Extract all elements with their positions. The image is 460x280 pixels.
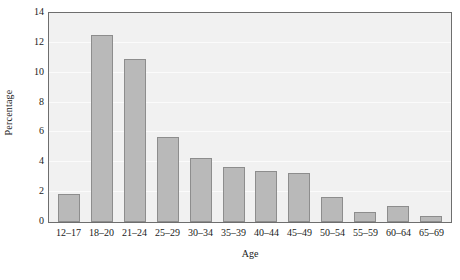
bar-slot — [381, 13, 414, 222]
y-axis-title-label: Percentage — [4, 89, 15, 135]
y-axis-tick-label: 10 — [34, 67, 44, 77]
x-axis-tick-label: 21–24 — [118, 226, 151, 242]
x-axis-tick-label: 30–34 — [184, 226, 217, 242]
bar-slot — [316, 13, 349, 222]
bar[interactable] — [354, 212, 376, 222]
x-axis-tick-label: 35–39 — [217, 226, 250, 242]
y-axis-tick-label: 14 — [34, 7, 44, 17]
x-axis-tick-label: 40–44 — [250, 226, 283, 242]
bars-layer — [49, 13, 451, 222]
bar[interactable] — [190, 158, 212, 222]
x-axis-tick-label: 45–49 — [283, 226, 316, 242]
bar-slot — [119, 13, 152, 222]
x-axis-tick-label: 50–54 — [316, 226, 349, 242]
bar-slot — [348, 13, 381, 222]
y-axis-title: Percentage — [0, 0, 18, 224]
bar[interactable] — [58, 194, 80, 222]
bar-slot — [250, 13, 283, 222]
bar-slot — [217, 13, 250, 222]
bar[interactable] — [91, 35, 113, 222]
y-axis-tick-label: 0 — [39, 216, 44, 226]
x-axis-tick-label: 12–17 — [52, 226, 85, 242]
bar[interactable] — [321, 197, 343, 222]
bar[interactable] — [420, 216, 442, 222]
y-axis-tick-labels: 02468101214 — [18, 0, 48, 232]
y-axis-tick-label: 8 — [39, 97, 44, 107]
bar[interactable] — [387, 206, 409, 222]
y-axis-tick-label: 2 — [39, 186, 44, 196]
y-axis-tick-label: 6 — [39, 126, 44, 136]
bar-slot — [414, 13, 447, 222]
bar-slot — [151, 13, 184, 222]
bar-chart: Percentage 02468101214 12–1718–2021–2425… — [0, 0, 460, 280]
y-axis-tick-label: 4 — [39, 156, 44, 166]
x-axis-title: Age — [48, 248, 452, 259]
bar[interactable] — [157, 137, 179, 222]
y-axis-tick-label: 12 — [34, 37, 44, 47]
bar[interactable] — [288, 173, 310, 222]
x-axis-tick-label: 55–59 — [349, 226, 382, 242]
x-axis-tick-labels: 12–1718–2021–2425–2930–3435–3940–4445–49… — [48, 226, 452, 242]
bar-slot — [53, 13, 86, 222]
x-axis-tick-label: 60–64 — [382, 226, 415, 242]
bar-slot — [184, 13, 217, 222]
bar-slot — [283, 13, 316, 222]
x-axis-tick-label: 25–29 — [151, 226, 184, 242]
bar[interactable] — [124, 59, 146, 222]
plot-area — [48, 12, 452, 223]
bar[interactable] — [255, 171, 277, 223]
x-axis-tick-label: 65–69 — [415, 226, 448, 242]
x-axis-tick-label: 18–20 — [85, 226, 118, 242]
bar[interactable] — [223, 167, 245, 222]
bar-slot — [86, 13, 119, 222]
